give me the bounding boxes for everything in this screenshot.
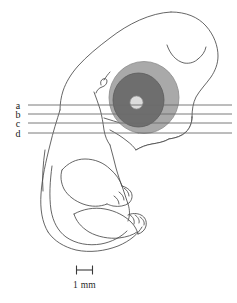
- embryo-figure: a b c d 1 mm: [0, 0, 237, 303]
- scale-bar-label: 1 mm: [73, 280, 96, 290]
- hindlimb-lower-outline: [74, 214, 137, 238]
- trunk-dorsal-outline: [41, 110, 60, 232]
- hindlimb-digit-1: [140, 217, 144, 225]
- scale-bar-group: [76, 266, 93, 275]
- placode-stalk-outline: [104, 72, 110, 80]
- section-labels-group: a b c d: [16, 100, 21, 139]
- torso-inner-outline: [110, 145, 122, 186]
- section-label-d: d: [16, 128, 21, 139]
- embryo-diagram-canvas: a b c d 1 mm: [0, 0, 237, 303]
- forelimb-hand-outline: [107, 186, 132, 206]
- forelimb-digit-3: [114, 196, 119, 204]
- nasal-placode-outline: [96, 79, 107, 93]
- trunk-outer-outline: [48, 227, 142, 251]
- forelimb-digit-2: [119, 192, 124, 200]
- mandibular-fold-outline: [198, 47, 206, 59]
- hindlimb-digit-2: [135, 215, 139, 223]
- eye-lens: [130, 96, 143, 109]
- maxillary-fold-outline: [167, 45, 198, 63]
- cervical-fold-outline: [94, 92, 110, 145]
- forelimb-lower-outline: [61, 170, 107, 206]
- forelimb-outline: [62, 159, 122, 186]
